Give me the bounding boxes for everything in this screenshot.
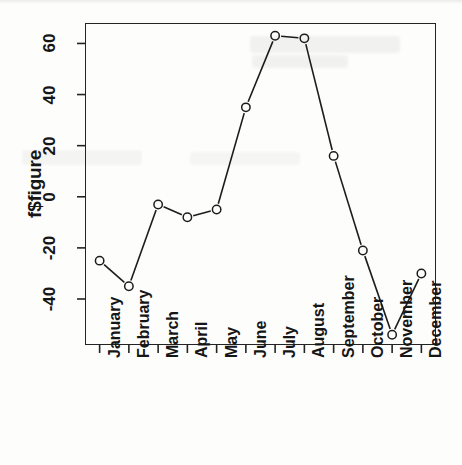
y-axis-tick-label: -40 [40,276,60,322]
y-axis-tick-label: -20 [40,225,60,271]
y-axis-tick-label: 40 [40,72,60,118]
y-axis-tick-label: 0 [40,174,60,220]
plot-canvas [0,0,462,465]
figure-root: f$figure 6040200-20-40 JanuaryFebruaryMa… [0,0,462,465]
data-line [104,36,419,329]
y-axis-tick-label: 20 [40,123,60,169]
y-axis-tick-label: 60 [40,20,60,66]
y-axis-tick-marks [77,43,85,299]
